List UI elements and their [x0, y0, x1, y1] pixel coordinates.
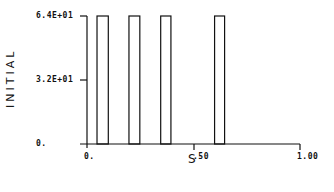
y-tick-label-zero: 0. — [36, 139, 47, 148]
y-axis-title: INITIAL — [4, 49, 17, 108]
bar-4 — [215, 16, 225, 144]
x-axis-title: S — [188, 152, 196, 166]
bar-2 — [129, 16, 140, 144]
x-tick-label-zero: 0. — [84, 152, 95, 161]
bar-1 — [97, 16, 108, 144]
y-tick-label-mid: 3.2E+01 — [36, 75, 73, 84]
bar-3 — [161, 16, 171, 144]
chart-plot-area — [0, 0, 334, 192]
y-tick-label-top: 6.4E+01 — [36, 11, 73, 20]
x-tick-label-max: 1.00 — [297, 152, 318, 161]
